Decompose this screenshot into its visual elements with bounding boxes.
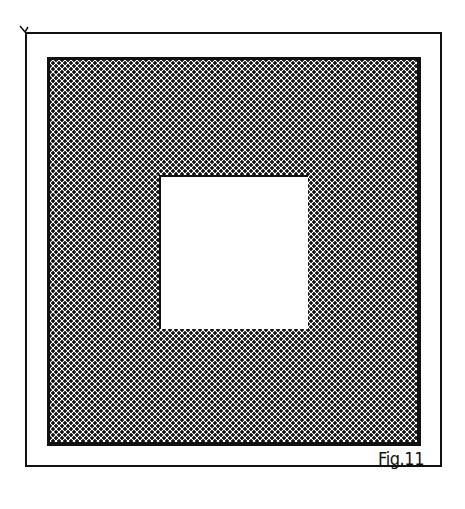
blank-center-square bbox=[159, 175, 308, 329]
figure-caption: Fig.11 bbox=[378, 448, 424, 469]
